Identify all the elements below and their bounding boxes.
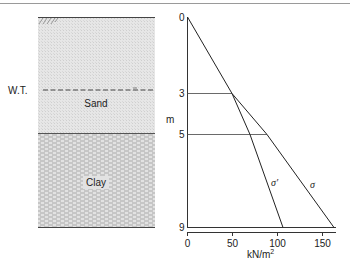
- soil-profile: W.T. Sand Clay: [8, 17, 155, 228]
- y-tick-5: 5: [179, 129, 185, 140]
- clay-label: Clay: [86, 177, 106, 188]
- y-axis-label: m: [166, 114, 174, 125]
- sand-label: Sand: [84, 98, 107, 109]
- y-tick-3: 3: [179, 88, 185, 99]
- x-tick-50: 50: [227, 238, 239, 249]
- y-tick-9: 9: [179, 222, 185, 233]
- x-axis-unit-superscript: 2: [270, 248, 274, 255]
- sand-layer: [38, 17, 155, 133]
- effective-stress-label: σ′: [271, 177, 279, 188]
- total-stress-label: σ: [310, 179, 316, 190]
- x-tick-0: 0: [185, 238, 191, 249]
- water-table-label: W.T.: [8, 85, 27, 96]
- x-axis-unit: kN/m: [247, 249, 270, 260]
- stress-diagram: W.T. Sand Clay 0 3 5 9: [0, 0, 350, 272]
- x-tick-150: 150: [314, 238, 331, 249]
- x-axis-label: kN/m2: [247, 248, 274, 260]
- effective-stress-line: [232, 94, 283, 228]
- stress-chart: 0 3 5 9 m 0 50 100 150 kN/m2 σ′ σ: [166, 12, 336, 260]
- total-stress-line: [188, 17, 335, 228]
- y-tick-0: 0: [179, 12, 185, 23]
